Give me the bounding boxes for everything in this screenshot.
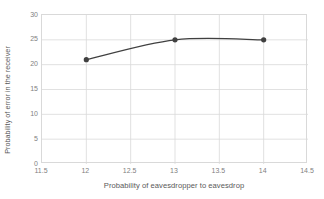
x-tick-label: 14.5: [300, 167, 314, 174]
x-tick-label: 11.5: [34, 167, 47, 174]
x-axis-title: Probability of eavesdropper to eavesdrop: [41, 181, 307, 190]
x-tick-label: 12: [81, 167, 89, 174]
x-tick-label: 14: [259, 167, 267, 174]
x-tick-label: 13.5: [212, 167, 226, 174]
x-tick-label: 13: [170, 167, 178, 174]
x-tick-label: 12.5: [123, 167, 137, 174]
line-chart: Probability of error in the receiver 051…: [0, 0, 324, 199]
x-axis-tick-labels: 11.51212.51313.51414.5: [0, 0, 324, 199]
